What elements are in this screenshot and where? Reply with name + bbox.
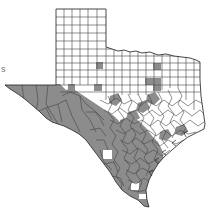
texas-county-map — [0, 0, 221, 210]
unshaded-county — [103, 150, 112, 159]
unshaded-county — [131, 183, 139, 190]
county-layer — [0, 0, 221, 210]
unshaded-county — [139, 194, 146, 199]
